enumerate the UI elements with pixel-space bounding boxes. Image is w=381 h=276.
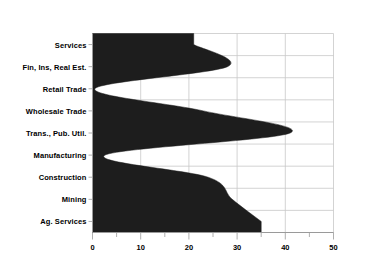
category-label: Trans., Pub. Util.	[26, 129, 87, 138]
category-label: Ag. Services	[40, 217, 86, 226]
value-tick-label: 0	[90, 243, 94, 252]
area-series-fill	[93, 34, 293, 233]
category-label: Wholesale Trade	[26, 106, 87, 115]
category-label: Services	[55, 40, 87, 49]
minor-ticks	[117, 233, 310, 238]
value-tick-label: 50	[329, 243, 337, 252]
category-label: Construction	[39, 173, 87, 182]
value-tick-label: 20	[185, 243, 193, 252]
category-label: Manufacturing	[34, 151, 87, 160]
category-label: Fin, Ins, Real Est.	[23, 62, 87, 71]
category-ticks	[89, 45, 93, 222]
value-tick-label: 30	[233, 243, 241, 252]
value-tick-label: 40	[281, 243, 289, 252]
value-tick-label: 10	[137, 243, 145, 252]
category-label: Retail Trade	[43, 84, 87, 93]
chart-container: ServicesFin, Ins, Real Est.Retail TradeW…	[0, 0, 381, 276]
category-label: Mining	[62, 195, 87, 204]
